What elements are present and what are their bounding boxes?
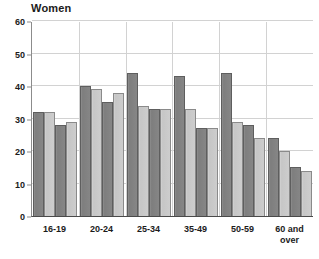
bar-60-and-over-s4 — [301, 171, 312, 217]
bar-60-and-over-s3 — [290, 167, 301, 216]
bar-chart: Women 0102030405060 16-1920-2425-3435-49… — [0, 0, 319, 259]
y-axis: 0102030405060 — [0, 22, 31, 217]
bar-16-19-s2 — [44, 112, 55, 216]
bar-50-59-s1 — [221, 73, 232, 216]
bar-group-20-24 — [79, 22, 126, 216]
x-tick-label-50-59: 50-59 — [219, 218, 266, 258]
bar-16-19-s3 — [55, 125, 66, 216]
x-tick-label-20-24: 20-24 — [78, 218, 125, 258]
bar-60-and-over-s2 — [279, 151, 290, 216]
y-tick-label-30: 30 — [15, 115, 25, 125]
bar-60-and-over-s1 — [268, 138, 279, 216]
bar-group-35-49 — [172, 22, 219, 216]
bar-50-59-s2 — [232, 122, 243, 216]
x-tick-label-25-34: 25-34 — [125, 218, 172, 258]
bar-20-24-s3 — [102, 102, 113, 216]
bar-35-49-s3 — [196, 128, 207, 216]
bar-20-24-s4 — [113, 93, 124, 217]
x-tick-label-60-and-over: 60 and over — [266, 218, 313, 258]
gridline-60 — [32, 20, 313, 21]
plot-area — [31, 22, 313, 217]
bar-35-49-s2 — [185, 109, 196, 216]
bar-25-34-s4 — [160, 109, 171, 216]
x-tick-label-35-49: 35-49 — [172, 218, 219, 258]
y-tick-label-20: 20 — [15, 147, 25, 157]
bar-group-60-and-over — [266, 22, 313, 216]
bar-20-24-s2 — [91, 89, 102, 216]
bar-50-59-s3 — [243, 125, 254, 216]
y-tick-label-60: 60 — [15, 17, 25, 27]
x-axis: 16-1920-2425-3435-4950-5960 and over — [31, 218, 313, 258]
bar-35-49-s1 — [174, 76, 185, 216]
bar-16-19-s4 — [66, 122, 77, 216]
y-tick-label-10: 10 — [15, 180, 25, 190]
bar-25-34-s2 — [138, 106, 149, 217]
bar-25-34-s1 — [127, 73, 138, 216]
y-tick-label-40: 40 — [15, 82, 25, 92]
y-tick-label-0: 0 — [20, 212, 25, 222]
bar-50-59-s4 — [254, 138, 265, 216]
bar-35-49-s4 — [207, 128, 218, 216]
y-tick-label-50: 50 — [15, 50, 25, 60]
bars-layer — [32, 22, 313, 216]
bar-group-25-34 — [126, 22, 173, 216]
bar-20-24-s1 — [80, 86, 91, 216]
bar-25-34-s3 — [149, 109, 160, 216]
x-tick-label-16-19: 16-19 — [31, 218, 78, 258]
bar-16-19-s1 — [33, 112, 44, 216]
chart-title: Women — [31, 2, 72, 14]
bar-group-16-19 — [32, 22, 79, 216]
bar-group-50-59 — [219, 22, 266, 216]
